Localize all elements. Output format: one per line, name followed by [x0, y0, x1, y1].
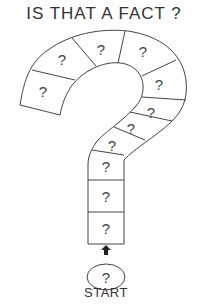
cell-symbols: ? ? ? ? ? ? ? ? ? ? ? ?: [39, 41, 163, 286]
svg-text:?: ?: [102, 269, 110, 286]
svg-text:?: ?: [147, 104, 155, 121]
svg-text:?: ?: [102, 220, 110, 237]
question-mark-board: ? ? ? ? ? ? ? ? ? ? ? ?: [0, 0, 208, 306]
arrow-up-icon: [101, 245, 111, 255]
svg-text:?: ?: [127, 120, 135, 137]
svg-text:?: ?: [139, 43, 147, 60]
svg-text:?: ?: [97, 41, 105, 58]
svg-text:?: ?: [39, 83, 47, 100]
svg-text:?: ?: [102, 188, 110, 205]
start-label: START: [80, 285, 132, 300]
svg-text:?: ?: [102, 158, 110, 175]
svg-text:?: ?: [58, 51, 66, 68]
svg-text:?: ?: [108, 137, 116, 154]
svg-text:?: ?: [155, 76, 163, 93]
